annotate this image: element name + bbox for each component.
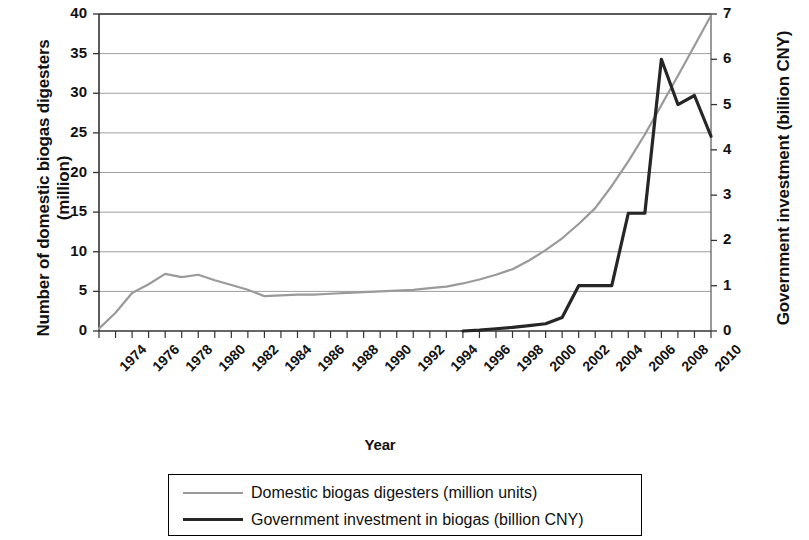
legend-line-black-icon	[183, 518, 243, 521]
plot-area	[0, 0, 809, 540]
legend-line-gray-icon	[183, 492, 243, 494]
legend-label-digesters: Domestic biogas digesters (million units…	[251, 484, 537, 502]
legend-item-investment: Government investment in biogas (billion…	[169, 506, 641, 533]
chart-figure: Number of domestic biogas digesters (mil…	[0, 0, 809, 540]
series-line-2	[463, 59, 711, 331]
chart-legend: Domestic biogas digesters (million units…	[168, 474, 642, 536]
legend-label-investment: Government investment in biogas (billion…	[251, 511, 584, 529]
legend-item-digesters: Domestic biogas digesters (million units…	[169, 479, 641, 506]
